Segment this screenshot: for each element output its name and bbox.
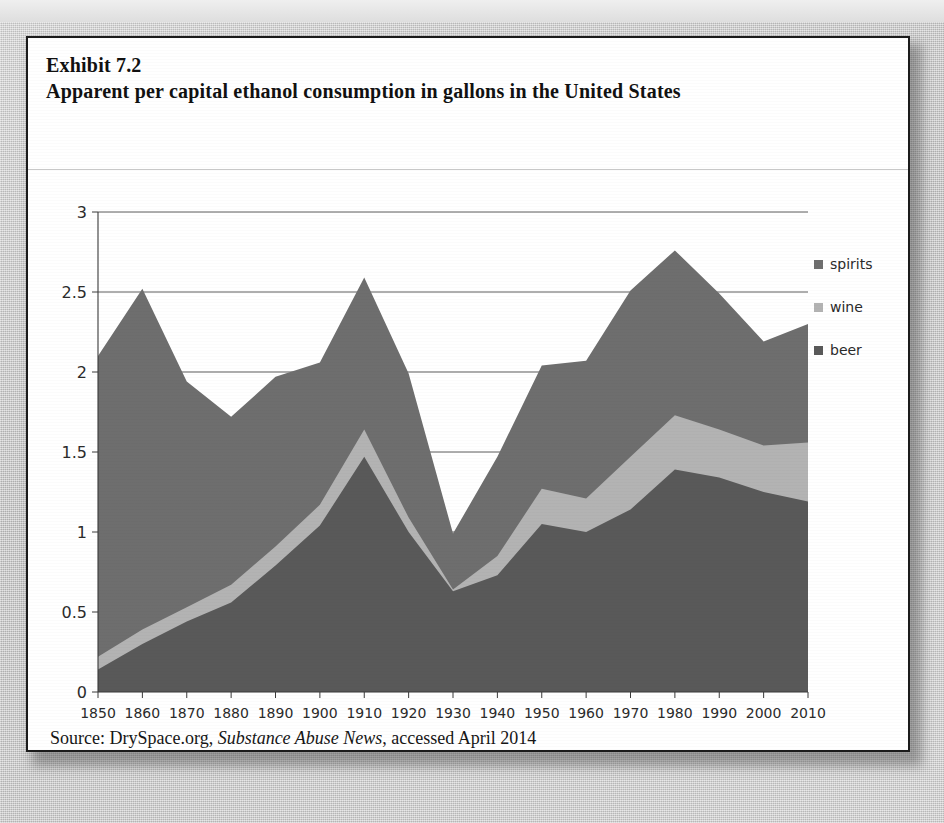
y-tick-label: 1.5 bbox=[62, 443, 87, 462]
x-tick-label: 1850 bbox=[80, 705, 116, 721]
y-tick-label: 2 bbox=[77, 363, 87, 382]
x-tick-label: 1980 bbox=[657, 705, 693, 721]
source-prefix: Source: DrySpace.org, bbox=[50, 728, 218, 748]
y-tick-label: 2.5 bbox=[62, 283, 87, 302]
chart-legend: spirits wine beer bbox=[814, 256, 910, 385]
x-tick-label: 2010 bbox=[790, 705, 826, 721]
x-tick-label: 1870 bbox=[169, 705, 205, 721]
legend-label-beer: beer bbox=[830, 342, 862, 358]
y-tick-label: 1 bbox=[77, 523, 87, 542]
x-tick-label: 1960 bbox=[568, 705, 604, 721]
x-tick-label: 1910 bbox=[346, 705, 382, 721]
x-tick-label: 1990 bbox=[701, 705, 737, 721]
legend-item-wine[interactable]: wine bbox=[814, 299, 910, 315]
x-tick-label: 1920 bbox=[391, 705, 427, 721]
chart-plot-area: 00.511.522.53 18501860187018801890190019… bbox=[28, 174, 908, 750]
legend-swatch-beer bbox=[814, 346, 823, 355]
x-tick-label: 1930 bbox=[435, 705, 471, 721]
y-axis-labels: 00.511.522.53 bbox=[62, 203, 87, 702]
legend-swatch-spirits bbox=[814, 260, 823, 269]
source-publication: Substance Abuse News bbox=[218, 728, 383, 748]
y-tick-label: 3 bbox=[77, 203, 87, 222]
x-tick-label: 1890 bbox=[258, 705, 294, 721]
x-tick-label: 2000 bbox=[746, 705, 782, 721]
x-tick-label: 1970 bbox=[613, 705, 649, 721]
page-top-band bbox=[0, 0, 944, 22]
source-suffix: , accessed April 2014 bbox=[382, 728, 536, 748]
x-tick-label: 1940 bbox=[480, 705, 516, 721]
area-series-group bbox=[98, 250, 808, 692]
legend-item-spirits[interactable]: spirits bbox=[814, 256, 910, 272]
y-tick-label: 0 bbox=[77, 683, 87, 702]
title-separator bbox=[28, 169, 908, 170]
x-axis-labels: 1850186018701880189019001910192019301940… bbox=[80, 705, 826, 721]
legend-swatch-wine bbox=[814, 303, 823, 312]
title-block: Exhibit 7.2 Apparent per capital ethanol… bbox=[46, 52, 746, 104]
stacked-area-chart: 00.511.522.53 18501860187018801890190019… bbox=[28, 174, 908, 750]
exhibit-card: Exhibit 7.2 Apparent per capital ethanol… bbox=[26, 36, 910, 752]
exhibit-number: Exhibit 7.2 bbox=[46, 52, 746, 78]
x-tick-label: 1950 bbox=[524, 705, 560, 721]
x-tick-label: 1880 bbox=[213, 705, 249, 721]
x-tick-label: 1900 bbox=[302, 705, 338, 721]
legend-item-beer[interactable]: beer bbox=[814, 342, 910, 358]
legend-label-wine: wine bbox=[830, 299, 863, 315]
legend-label-spirits: spirits bbox=[830, 256, 873, 272]
y-tick-label: 0.5 bbox=[62, 603, 87, 622]
x-tick-label: 1860 bbox=[125, 705, 161, 721]
exhibit-title: Apparent per capital ethanol consumption… bbox=[46, 78, 746, 104]
source-note: Source: DrySpace.org, Substance Abuse Ne… bbox=[50, 728, 536, 749]
